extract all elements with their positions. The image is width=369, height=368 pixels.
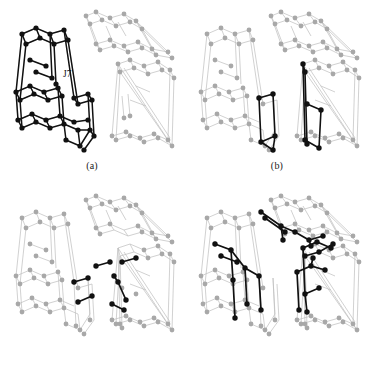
gray-edges-d bbox=[201, 196, 359, 334]
panel-c: J7 (c) bbox=[0, 184, 184, 368]
gray-nodes-b bbox=[199, 10, 362, 153]
panel-b: J7 (b) bbox=[185, 0, 369, 184]
caption-b: (b) bbox=[185, 160, 369, 171]
panel-d-graph bbox=[185, 184, 369, 368]
gray-edges-a bbox=[16, 12, 174, 146]
panel-a: J7 (a) bbox=[0, 0, 184, 184]
figure-root: J7 (a) bbox=[0, 0, 369, 368]
panel-c-graph bbox=[0, 184, 184, 368]
caption-a: (a) bbox=[0, 160, 184, 171]
panel-a-graph bbox=[0, 0, 184, 184]
gray-nodes-d bbox=[199, 194, 362, 337]
gray-edges-b bbox=[201, 12, 359, 150]
vertex-label-a: J7 bbox=[63, 69, 71, 79]
panel-d: J7 (d) bbox=[185, 184, 369, 368]
gray-nodes-a bbox=[84, 10, 177, 149]
panel-b-graph bbox=[185, 0, 369, 184]
